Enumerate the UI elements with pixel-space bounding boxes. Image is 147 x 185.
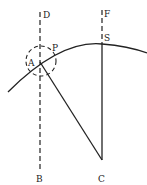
line-ac: [40, 62, 102, 160]
label-b: B: [36, 174, 43, 184]
label-p: P: [52, 43, 58, 53]
label-a: A: [27, 58, 35, 68]
label-s: S: [104, 33, 110, 43]
label-d: D: [43, 10, 50, 20]
label-f: F: [104, 9, 110, 19]
label-c: C: [98, 174, 105, 184]
geometry-diagram: D F S P A B C: [0, 0, 147, 185]
